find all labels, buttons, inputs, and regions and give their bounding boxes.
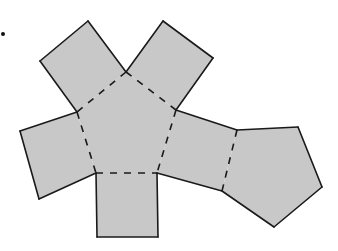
right-pentagon [222, 127, 322, 227]
list-bullet [1, 32, 5, 36]
prism-net-svg [0, 0, 338, 251]
outer-edge [157, 173, 158, 237]
net-diagram [0, 0, 338, 251]
outer-edge [96, 173, 97, 237]
bottom-square [96, 173, 158, 237]
